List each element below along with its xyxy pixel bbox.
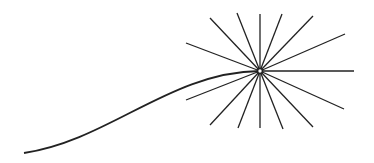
radial-burst-diagram [0,0,374,163]
spoke-line [238,71,260,128]
connecting-curve [24,71,260,153]
spoke-lines [186,13,354,129]
spoke-line [210,18,260,71]
spoke-line [210,71,260,125]
center-node [258,69,263,74]
spoke-line [186,43,260,71]
spoke-line [260,16,313,71]
spoke-line [260,71,313,127]
spoke-line [237,13,260,71]
